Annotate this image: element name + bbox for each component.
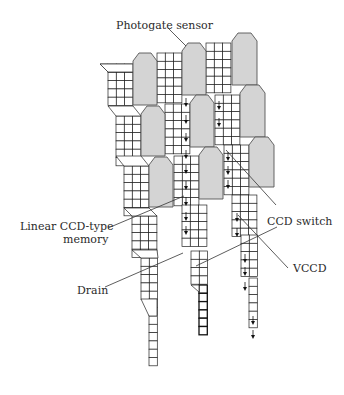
grid-cell	[174, 61, 182, 69]
grid-cell	[199, 327, 207, 335]
grid-cell	[191, 251, 199, 259]
photogate-sensor	[240, 85, 265, 137]
grid-cell	[249, 243, 257, 251]
grid-cell	[232, 153, 240, 161]
grid-cell	[141, 166, 149, 174]
grid-cell	[206, 51, 214, 59]
grid-cell	[132, 241, 140, 249]
grid-cell	[165, 53, 173, 61]
grid-cell	[116, 97, 124, 105]
grid-cell	[141, 258, 149, 266]
grid-cell	[149, 241, 157, 249]
taper-cell	[141, 299, 157, 316]
grid-cell	[240, 195, 248, 203]
grid-cell	[232, 195, 240, 203]
grid-cell	[232, 112, 240, 120]
grid-cell	[199, 230, 207, 238]
grid-cell	[232, 137, 240, 145]
grid-cell	[108, 97, 116, 105]
grid-cell	[165, 61, 173, 69]
grid-cell	[132, 174, 140, 182]
grid-cell	[149, 291, 157, 299]
grid-cell	[191, 164, 199, 172]
grid-cell	[116, 89, 124, 97]
grid-cell	[206, 68, 214, 76]
grid-cell	[124, 191, 132, 199]
grid-cell	[173, 112, 181, 120]
grid-cell	[232, 120, 240, 128]
grid-cell	[141, 183, 149, 191]
grid-cell	[199, 276, 207, 284]
arrowhead	[251, 335, 255, 339]
grid-cell	[240, 203, 248, 211]
grid-cell	[199, 310, 207, 318]
grid-cell	[174, 53, 182, 61]
grid-cell	[232, 220, 240, 228]
grid-cell	[199, 302, 207, 310]
grid-cell	[249, 278, 257, 286]
grid-cell	[191, 173, 199, 181]
grid-cell	[249, 295, 257, 303]
grid-cell	[125, 97, 133, 105]
taper-cell	[191, 285, 199, 292]
label-linear-ccd-memory-line1: Linear CCD-type	[20, 220, 114, 233]
grid-cell	[141, 275, 149, 283]
grid-cell	[133, 133, 141, 141]
grid-cell	[190, 238, 198, 246]
grid-cell	[140, 224, 148, 232]
grid-cell	[199, 285, 207, 293]
grid-cell	[191, 276, 199, 284]
grid-cell	[165, 129, 173, 137]
grid-cell	[232, 162, 240, 170]
grid-cell	[206, 85, 214, 93]
taper-cell	[100, 64, 133, 72]
grid-cell	[214, 51, 222, 59]
grid-cell	[223, 60, 231, 68]
grid-cell	[199, 318, 207, 326]
label-photogate-sensor: Photogate sensor	[116, 19, 214, 32]
photogate-sensor	[141, 106, 165, 156]
photogate-sensor	[232, 33, 257, 85]
grid-cell	[223, 103, 231, 111]
grid-cell	[173, 121, 181, 129]
grid-cell	[165, 112, 173, 120]
grid-cell	[223, 128, 231, 136]
grid-cell	[165, 121, 173, 129]
grid-cell	[141, 291, 149, 299]
grid-cell	[149, 233, 157, 241]
grid-cell	[190, 213, 198, 221]
grid-cell	[174, 164, 182, 172]
grid-cell	[241, 243, 249, 251]
grid-cell	[124, 124, 132, 132]
grid-cell	[232, 187, 240, 195]
grid-cell	[241, 153, 249, 161]
grid-cell	[173, 146, 181, 154]
grid-cell	[132, 183, 140, 191]
grid-cell	[149, 224, 157, 232]
grid-cell	[116, 116, 124, 124]
grid-cell	[199, 205, 207, 213]
grid-cell	[214, 68, 222, 76]
grid-cell	[132, 224, 140, 232]
grid-cell	[125, 72, 133, 80]
grid-cell	[240, 220, 248, 228]
grid-cell	[206, 43, 214, 51]
label-vccd: VCCD	[292, 262, 327, 275]
grid-cell	[157, 78, 165, 86]
grid-cell	[249, 195, 257, 203]
grid-cell	[125, 89, 133, 97]
grid-cell	[124, 133, 132, 141]
grid-cell	[149, 275, 157, 283]
grid-cell	[214, 76, 222, 84]
grid-cell	[173, 104, 181, 112]
grid-cell	[249, 220, 257, 228]
ccd-sensor-diagram: Photogate sensor Linear CCD-type memory …	[0, 0, 344, 395]
grid-cell	[132, 191, 140, 199]
grid-cell	[140, 216, 148, 224]
photogate-sensor	[149, 157, 173, 207]
grid-cell	[249, 212, 257, 220]
grid-cell	[124, 174, 132, 182]
grid-cell	[173, 137, 181, 145]
grid-cell	[132, 233, 140, 241]
grid-cell	[249, 203, 257, 211]
